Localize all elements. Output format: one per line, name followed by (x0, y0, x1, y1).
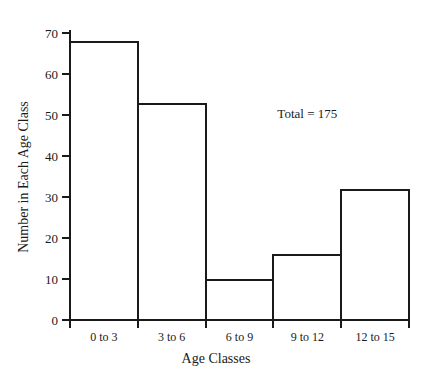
x-axis-tick (137, 320, 139, 328)
y-axis-tick-label: 0 (22, 314, 58, 327)
y-axis-tick (62, 196, 69, 198)
x-axis-tick (205, 320, 207, 328)
y-axis-tick (62, 319, 69, 321)
bar (340, 189, 410, 320)
y-axis-tick (62, 237, 69, 239)
x-axis-tick (408, 320, 410, 328)
x-axis-tick (340, 320, 342, 328)
y-axis-tick-label: 70 (22, 27, 58, 40)
y-axis-tick (62, 114, 69, 116)
histogram-chart: 010203040506070 0 to 33 to 66 to 99 to 1… (0, 0, 432, 381)
y-axis-title: Number in Each Age Class (17, 47, 31, 307)
bar (69, 41, 139, 320)
y-axis-tick (62, 155, 69, 157)
bar (272, 254, 342, 320)
y-axis-tick (62, 73, 69, 75)
chart-annotation-total: Total = 175 (247, 107, 367, 120)
x-axis-tick (272, 320, 274, 328)
x-axis-tick-label: 12 to 15 (335, 331, 415, 343)
bar (205, 279, 275, 320)
x-axis-tick (69, 320, 71, 328)
x-axis-title: Age Classes (0, 352, 432, 366)
y-axis-tick (62, 32, 69, 34)
bar (137, 103, 207, 320)
y-axis-tick (62, 278, 69, 280)
